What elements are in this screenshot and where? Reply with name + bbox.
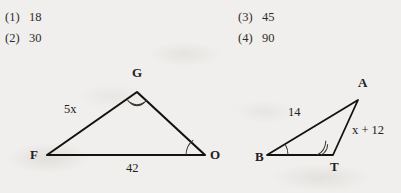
vertex-label-f: F — [30, 148, 38, 161]
vertex-label-b: B — [255, 150, 264, 163]
vertex-label-g: G — [132, 66, 142, 79]
angle-arc-g-inner — [130, 103, 143, 106]
vertex-label-o: O — [210, 148, 220, 161]
vertex-label-a: A — [358, 76, 367, 89]
side-label-5x: 5x — [64, 103, 77, 116]
triangle-bat-outline — [267, 100, 358, 155]
angle-arc-b — [285, 144, 288, 155]
figures-svg — [0, 0, 401, 193]
side-label-x-plus-12: x + 12 — [352, 124, 384, 137]
angle-arc-g-outer — [128, 100, 147, 104]
side-label-42: 42 — [126, 162, 139, 175]
triangle-bat-shape — [267, 100, 358, 155]
side-label-14: 14 — [288, 106, 301, 119]
geometry-figures: F G O 5x 42 B A T 14 x + 12 — [0, 0, 401, 193]
angle-arc-t-inner — [321, 144, 328, 155]
vertex-label-t: T — [330, 160, 339, 173]
